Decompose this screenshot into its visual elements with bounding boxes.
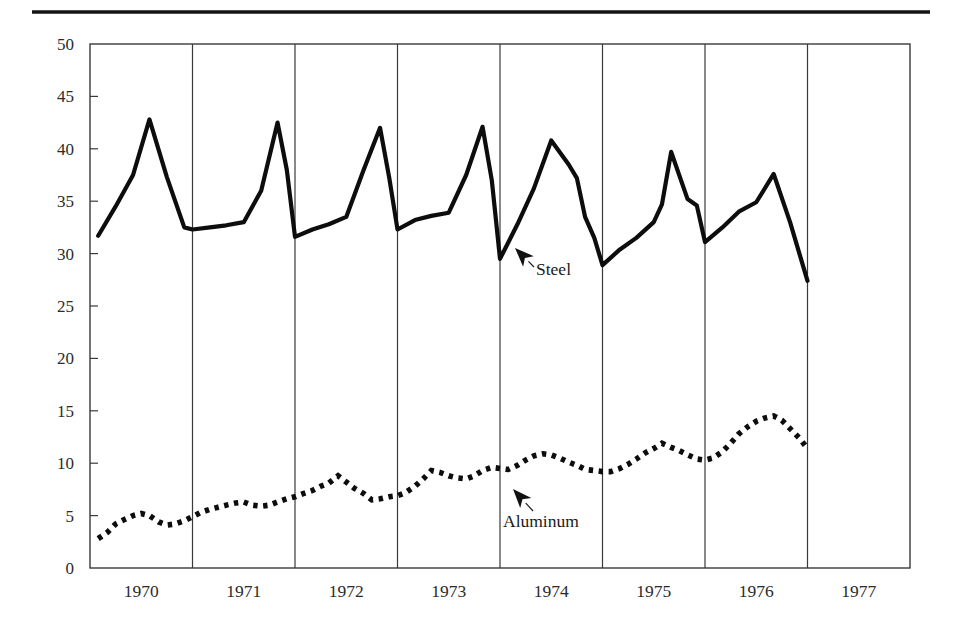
series-line-aluminum [98, 416, 807, 539]
figure-container: 05101520253035404550 1970197119721973197… [0, 0, 960, 636]
y-axis-label-50: 50 [57, 35, 74, 54]
annotation-leader-aluminum [526, 503, 533, 511]
annotation-leader-steel [528, 261, 534, 267]
y-axis-label-40: 40 [57, 140, 74, 159]
y-axis-label-35: 35 [57, 192, 74, 211]
x-axis-label-1970: 1970 [124, 581, 159, 601]
y-axis-label-10: 10 [57, 454, 74, 473]
y-axis-label-30: 30 [57, 245, 74, 264]
y-axis-label-20: 20 [57, 349, 74, 368]
x-axis-label-1971: 1971 [226, 581, 261, 601]
steel-aluminum-line-chart: 05101520253035404550 1970197119721973197… [0, 0, 960, 636]
series-annotation-label-steel: Steel [536, 259, 571, 279]
y-axis-label-45: 45 [57, 87, 74, 106]
x-axis-label-1974: 1974 [534, 581, 569, 601]
data-series-group [98, 119, 807, 538]
y-axis-label-0: 0 [66, 559, 75, 578]
x-axis-label-1975: 1975 [636, 581, 671, 601]
annotations-group: SteelAluminum [503, 248, 579, 531]
gridlines-group [193, 44, 808, 568]
annotation-arrowhead-aluminum [513, 489, 531, 508]
y-axis-label-15: 15 [57, 402, 74, 421]
series-line-steel [98, 119, 807, 280]
y-axis-labels-group: 05101520253035404550 [57, 35, 74, 578]
x-axis-label-1972: 1972 [329, 581, 364, 601]
y-axis-ticks-group [90, 96, 98, 515]
y-axis-label-25: 25 [57, 297, 74, 316]
x-axis-label-1973: 1973 [431, 581, 466, 601]
x-axis-labels-group: 19701971197219731974197519761977 [124, 581, 877, 601]
y-axis-label-5: 5 [66, 507, 75, 526]
x-axis-label-1976: 1976 [739, 581, 774, 601]
series-annotation-label-aluminum: Aluminum [503, 511, 579, 531]
x-axis-label-1977: 1977 [841, 581, 876, 601]
